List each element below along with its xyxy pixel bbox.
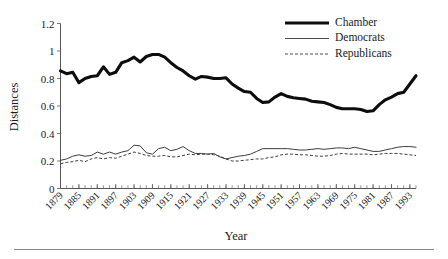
line-chart: 00.20.40.60.811.2 1879188518911897190319… [0,0,448,259]
x-tick-label: 1921 [172,190,194,212]
x-tick-label: 1903 [117,190,139,212]
y-tick-label: 0.2 [41,155,55,167]
x-tick-label: 1891 [80,190,102,212]
legend-label-chamber: Chamber [335,16,377,28]
x-tick-label: 1951 [264,190,286,212]
x-tick-label: 1993 [392,190,414,212]
x-tick-label: 1981 [356,190,378,212]
x-tick-label: 1915 [153,190,175,212]
legend-label-democrats: Democrats [335,31,385,43]
x-tick-label: 1987 [374,190,396,212]
x-tick-label: 1945 [245,190,267,212]
legend-label-republicans: Republicans [335,47,392,60]
x-tick-label: 1933 [208,190,230,212]
figure-container: 00.20.40.60.811.2 1879188518911897190319… [0,0,448,259]
x-tick-label: 1969 [319,190,341,212]
x-axis-minor-ticks [61,184,417,189]
x-tick-label: 1909 [135,190,157,212]
series-line-democrats [61,145,417,160]
x-tick-label: 1897 [98,190,120,212]
x-tick-label: 1939 [227,190,249,212]
x-axis-title: Year [224,229,248,243]
x-tick-label: 1963 [300,190,322,212]
x-axis-tick-labels: 1879188518911897190319091915192119271933… [43,190,414,212]
y-axis [57,24,61,189]
chart-legend: ChamberDemocratsRepublicans [285,16,392,60]
y-tick-label: 0.8 [41,73,55,85]
x-tick-label: 1975 [337,190,359,212]
y-tick-label: 0.6 [41,100,55,112]
y-axis-title: Distances [7,83,21,132]
x-tick-label: 1927 [190,190,212,212]
data-series-group [61,54,417,163]
y-tick-label: 0.4 [41,128,55,140]
footer-divider [14,249,434,250]
series-line-chamber [61,54,417,111]
x-tick-label: 1885 [61,190,83,212]
y-tick-label: 1.2 [41,18,55,30]
y-tick-label: 1 [49,45,55,57]
y-axis-tick-labels: 00.20.40.60.811.2 [41,18,55,195]
x-tick-label: 1879 [43,190,65,212]
x-tick-label: 1957 [282,190,304,212]
